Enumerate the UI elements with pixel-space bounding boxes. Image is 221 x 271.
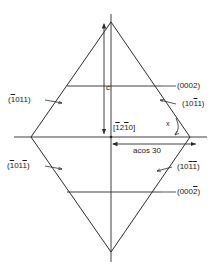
label-plr-close: ) bbox=[197, 162, 200, 171]
label-plr-open: (10 bbox=[177, 162, 189, 171]
label-basal-plane-top: (0002) bbox=[177, 82, 200, 90]
label-angle-x: x bbox=[166, 120, 170, 127]
angle-x-arc bbox=[175, 118, 178, 135]
facet-edge-upper-right bbox=[111, 22, 190, 137]
label-pur-open: (10 bbox=[182, 99, 194, 108]
label-c-axis-text: c bbox=[106, 83, 110, 92]
leader-pyramid-upper-right bbox=[160, 100, 176, 104]
label-pyramid-upper-right: (1011) bbox=[182, 100, 205, 108]
label-pll-close: ) bbox=[27, 161, 30, 170]
label-pul-rest: 011) bbox=[15, 95, 30, 104]
label-basal-plane-bottom: (0002) bbox=[177, 188, 200, 196]
label-basal-bottom-prefix: (000 bbox=[177, 187, 193, 196]
leader-pyramid-upper-left bbox=[45, 100, 62, 103]
label-basal-plane-top-text: (0002) bbox=[177, 81, 200, 90]
facet-edge-upper-left bbox=[31, 22, 111, 137]
crystal-diagram: (0002) (0002) (1011) (1011) (1011) (1011… bbox=[0, 0, 221, 271]
leader-pyramid-lower-right bbox=[157, 167, 172, 171]
facet-edge-lower-left bbox=[31, 137, 111, 252]
label-pyramid-upper-left: (1011) bbox=[8, 96, 31, 104]
origin-point bbox=[110, 136, 113, 139]
crystal-bipyramid-drawing bbox=[0, 0, 221, 271]
label-c-axis: c bbox=[106, 84, 110, 92]
label-pyramid-lower-right: (1011) bbox=[177, 163, 200, 171]
label-dir-rest: 0] bbox=[129, 123, 136, 132]
label-a-dimension: acos 30 bbox=[133, 147, 161, 155]
label-pur-rest: 1) bbox=[197, 99, 204, 108]
label-angle-x-text: x bbox=[166, 120, 170, 127]
label-pyramid-lower-left: (1011) bbox=[7, 162, 30, 170]
label-a-dimension-text: acos 30 bbox=[133, 146, 161, 155]
label-direction-vector: [1210] bbox=[113, 124, 135, 132]
label-basal-bottom-suffix: ) bbox=[197, 187, 200, 196]
